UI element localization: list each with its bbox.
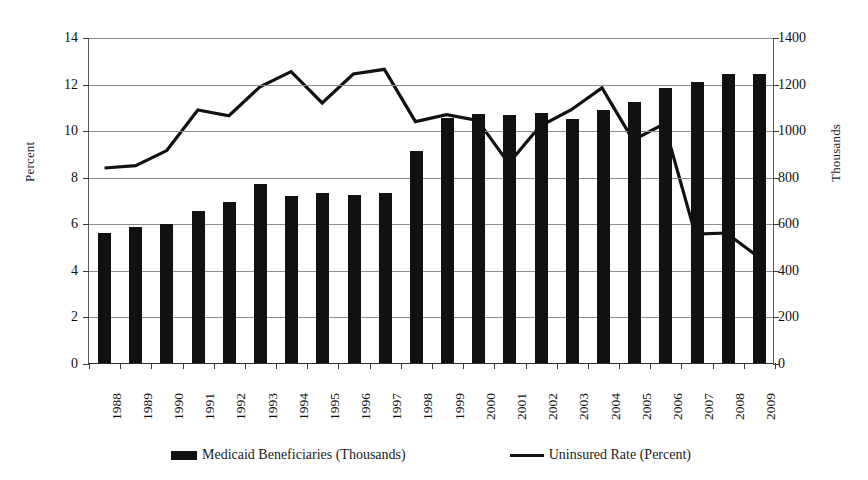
legend-label: Uninsured Rate (Percent)	[549, 447, 691, 463]
bar-2008	[722, 74, 735, 363]
x-axis-tickmark	[650, 363, 651, 369]
x-axis-label-2005: 2005	[640, 393, 654, 420]
bar-1994	[285, 196, 298, 363]
y-axis-left-tickmark	[83, 271, 89, 272]
y-axis-right-tickmark	[773, 131, 779, 132]
x-axis-tickmark	[276, 363, 277, 369]
x-axis-tickmark	[89, 363, 90, 369]
y-axis-left-tickmark	[83, 38, 89, 39]
y-axis-right-tickmark	[773, 317, 779, 318]
bar-1998	[410, 151, 423, 363]
x-axis-category-labels: 1988198919901991199219931994199519961997…	[88, 372, 774, 424]
x-axis-tickmark	[557, 363, 558, 369]
y-axis-right-tick-label: 600	[778, 217, 799, 231]
x-axis-tickmark	[713, 363, 714, 369]
x-axis-tickmark	[744, 363, 745, 369]
bar-1991	[192, 211, 205, 363]
y-axis-left-tickmark	[83, 85, 89, 86]
bar-2001	[503, 115, 516, 363]
x-axis-label-1996: 1996	[359, 393, 373, 420]
x-axis-tickmark	[681, 363, 682, 369]
x-axis-label-1988: 1988	[110, 393, 124, 420]
y-axis-left-tick-label: 2	[71, 310, 78, 324]
y-axis-right-tickmark	[773, 364, 779, 365]
x-axis-tickmark	[120, 363, 121, 369]
gridline	[89, 85, 773, 86]
x-axis-label-1991: 1991	[203, 393, 217, 420]
y-axis-right-ticks: 0200400600800100012001400	[778, 0, 824, 480]
x-axis-tickmark	[151, 363, 152, 369]
y-axis-right-tickmark	[773, 271, 779, 272]
x-axis-label-1994: 1994	[297, 393, 311, 420]
x-axis-label-1995: 1995	[328, 393, 342, 420]
bar-swatch-icon	[171, 451, 197, 460]
x-axis-label-1999: 1999	[453, 393, 467, 420]
legend-item-medicaid-beneficiaries[interactable]: Medicaid Beneficiaries (Thousands)	[171, 447, 406, 463]
y-axis-left-tick-label: 8	[71, 171, 78, 185]
chart-figure: Percent Thousands 02468101214 0200400600…	[0, 0, 868, 480]
legend-item-uninsured-rate[interactable]: Uninsured Rate (Percent)	[510, 447, 691, 463]
y-axis-left-tickmark	[83, 131, 89, 132]
y-axis-right-tickmark	[773, 178, 779, 179]
legend-label: Medicaid Beneficiaries (Thousands)	[202, 447, 406, 463]
bar-1989	[129, 227, 142, 363]
y-axis-left-tick-label: 12	[64, 78, 78, 92]
bar-2007	[691, 82, 704, 363]
bar-2002	[535, 113, 548, 363]
bar-1992	[223, 202, 236, 363]
y-axis-right-tick-label: 1400	[778, 31, 806, 45]
bar-2005	[628, 102, 641, 363]
y-axis-left-tickmark	[83, 178, 89, 179]
y-axis-left-tick-label: 14	[64, 31, 78, 45]
y-axis-left-tickmark	[83, 317, 89, 318]
x-axis-tickmark	[338, 363, 339, 369]
y-axis-right-tick-label: 1200	[778, 78, 806, 92]
bar-1988	[98, 233, 111, 363]
y-axis-right-title: Thousands	[828, 124, 844, 182]
bar-1990	[160, 224, 173, 363]
x-axis-label-1997: 1997	[390, 393, 404, 420]
x-axis-label-2001: 2001	[515, 393, 529, 420]
x-axis-label-1989: 1989	[141, 393, 155, 420]
x-axis-tickmark	[432, 363, 433, 369]
y-axis-left-tick-label: 6	[71, 217, 78, 231]
x-axis-label-1990: 1990	[172, 393, 186, 420]
bar-1996	[348, 195, 361, 363]
x-axis-label-2002: 2002	[546, 393, 560, 420]
y-axis-left-title: Percent	[22, 142, 38, 182]
x-axis-label-2006: 2006	[671, 393, 685, 420]
y-axis-left-tick-label: 10	[64, 124, 78, 138]
y-axis-right-tickmark	[773, 85, 779, 86]
x-axis-label-2003: 2003	[577, 393, 591, 420]
x-axis-label-2000: 2000	[484, 393, 498, 420]
x-axis-tickmark	[214, 363, 215, 369]
x-axis-label-2007: 2007	[702, 393, 716, 420]
x-axis-label-2009: 2009	[764, 393, 778, 420]
y-axis-right-tick-label: 400	[778, 264, 799, 278]
bar-2009	[753, 74, 766, 363]
x-axis-tickmark	[307, 363, 308, 369]
y-axis-right-tick-label: 0	[778, 357, 785, 371]
y-axis-left-tick-label: 0	[71, 357, 78, 371]
bar-1995	[316, 193, 329, 363]
bar-1993	[254, 184, 267, 363]
x-axis-label-1993: 1993	[266, 393, 280, 420]
x-axis-tickmark	[463, 363, 464, 369]
x-axis-label-2004: 2004	[609, 393, 623, 420]
y-axis-left-tick-label: 4	[71, 264, 78, 278]
x-axis-tickmark	[619, 363, 620, 369]
bar-2004	[597, 110, 610, 363]
x-axis-tickmark	[245, 363, 246, 369]
x-axis-tickmark	[183, 363, 184, 369]
y-axis-right-tick-label: 1000	[778, 124, 806, 138]
y-axis-right-tick-label: 800	[778, 171, 799, 185]
chart-legend: Medicaid Beneficiaries (Thousands)Uninsu…	[88, 443, 774, 467]
plot-area	[88, 38, 774, 364]
y-axis-right-tickmark	[773, 38, 779, 39]
bar-2000	[472, 114, 485, 363]
y-axis-right-tick-label: 200	[778, 310, 799, 324]
x-axis-label-1992: 1992	[234, 393, 248, 420]
y-axis-right-tickmark	[773, 224, 779, 225]
x-axis-tickmark	[588, 363, 589, 369]
x-axis-tickmark	[494, 363, 495, 369]
